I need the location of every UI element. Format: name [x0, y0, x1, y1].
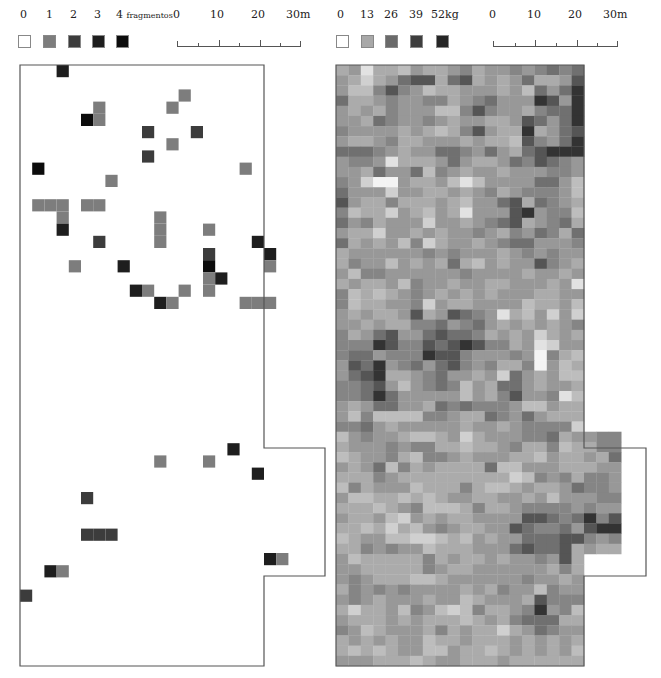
grid-cell: [572, 65, 585, 75]
grid-cell: [410, 472, 423, 482]
grid-cell: [373, 96, 386, 106]
grid-cell: [361, 391, 374, 401]
grid-cell: [448, 197, 461, 207]
grid-cell: [423, 259, 436, 269]
grid-cell: [572, 269, 585, 279]
grid-cell: [423, 401, 436, 411]
grid-cell: [510, 656, 523, 666]
grid-cell: [348, 126, 361, 136]
grid-cell: [497, 554, 510, 564]
grid-cell: [398, 96, 411, 106]
grid-cell: [609, 432, 622, 442]
grid-cell: [398, 574, 411, 584]
grid-cell: [534, 544, 547, 554]
grid-cell: [510, 187, 523, 197]
grid-cell: [534, 167, 547, 177]
grid-cell: [435, 391, 448, 401]
grid-cell: [423, 228, 436, 238]
grid-cell: [361, 269, 374, 279]
grid-cell: [240, 163, 252, 175]
grid-cell: [497, 187, 510, 197]
grid-cell: [398, 534, 411, 544]
grid-cell: [373, 462, 386, 472]
grid-cell: [448, 411, 461, 421]
grid-cell: [373, 523, 386, 533]
grid-cell: [448, 585, 461, 595]
grid-cell: [373, 106, 386, 116]
grid-cell: [534, 187, 547, 197]
grid-cell: [423, 208, 436, 218]
grid-cell: [373, 544, 386, 554]
grid-cell: [435, 544, 448, 554]
grid-cell: [460, 289, 473, 299]
grid-cell: [130, 285, 142, 297]
grid-cell: [609, 462, 622, 472]
grid-cell: [510, 595, 523, 605]
grid-cell: [398, 401, 411, 411]
grid-cell: [336, 462, 349, 472]
grid-cell: [559, 75, 572, 85]
grid-cell: [410, 452, 423, 462]
grid-cell: [336, 269, 349, 279]
grid-cell: [448, 106, 461, 116]
grid-cell: [460, 320, 473, 330]
grid-cell: [410, 146, 423, 156]
grid-cell: [547, 442, 560, 452]
grid-cell: [522, 259, 535, 269]
grid-cell: [460, 523, 473, 533]
grid-cell: [522, 493, 535, 503]
grid-cell: [460, 635, 473, 645]
grid-cell: [336, 534, 349, 544]
grid-cell: [572, 656, 585, 666]
grid-cell: [373, 371, 386, 381]
grid-cell: [584, 483, 597, 493]
grid-cell: [584, 432, 597, 442]
grid-cell: [435, 371, 448, 381]
grid-cell: [336, 483, 349, 493]
grid-cell: [348, 585, 361, 595]
grid-cell: [547, 635, 560, 645]
legend-swatch: [92, 35, 105, 48]
grid-cell: [497, 360, 510, 370]
grid-cell: [510, 452, 523, 462]
grid-cell: [497, 85, 510, 95]
grid-cell: [348, 483, 361, 493]
grid-cell: [410, 574, 423, 584]
grid-cell: [510, 544, 523, 554]
grid-cell: [572, 85, 585, 95]
grid-cell: [522, 615, 535, 625]
grid-cell: [348, 605, 361, 615]
grid-cell: [534, 228, 547, 238]
grid-cell: [423, 595, 436, 605]
grid-cell: [435, 167, 448, 177]
grid-cell: [547, 432, 560, 442]
grid-cell: [485, 544, 498, 554]
grid-cell: [534, 350, 547, 360]
grid-cell: [93, 114, 105, 126]
grid-cell: [348, 116, 361, 126]
grid-cell: [435, 75, 448, 85]
grid-cell: [559, 574, 572, 584]
scale-tick: [260, 40, 261, 46]
grid-cell: [361, 381, 374, 391]
legend-swatch: [410, 35, 423, 48]
grid-cell: [423, 635, 436, 645]
grid-cell: [423, 371, 436, 381]
grid-cell: [472, 309, 485, 319]
grid-cell: [142, 150, 154, 162]
grid-cell: [522, 605, 535, 615]
grid-cell: [386, 65, 399, 75]
grid-cell: [348, 340, 361, 350]
grid-cell: [373, 350, 386, 360]
grid-cell: [386, 177, 399, 187]
scale-tick: [280, 43, 281, 46]
grid-cell: [522, 96, 535, 106]
grid-cell: [373, 238, 386, 248]
grid-cell: [361, 146, 374, 156]
grid-cell: [348, 187, 361, 197]
grid-cell: [423, 483, 436, 493]
grid-cell: [534, 585, 547, 595]
grid-cell: [547, 309, 560, 319]
grid-cell: [559, 360, 572, 370]
grid-cell: [510, 360, 523, 370]
